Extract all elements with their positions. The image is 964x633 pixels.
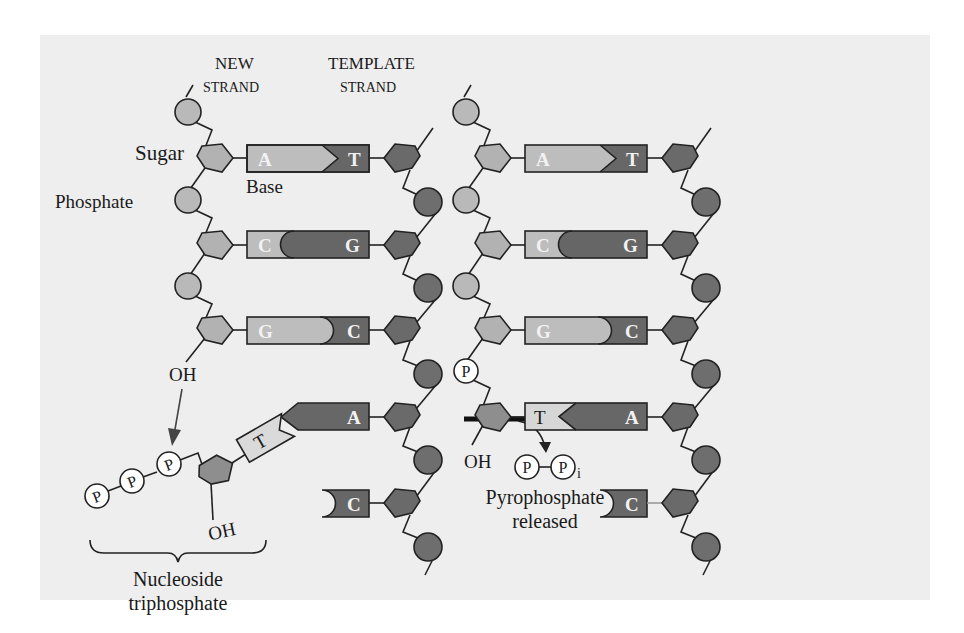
base-letter: C [347, 494, 361, 515]
sugar-icon [662, 144, 698, 172]
p-symbol: P [523, 459, 532, 476]
phosphate-icon [414, 274, 442, 302]
new-strand-phosphates [175, 99, 201, 299]
phosphate-label: Phosphate [55, 191, 133, 212]
pi-subscript: i [577, 466, 581, 481]
base-letter: C [258, 235, 272, 256]
sugar-icon [662, 231, 698, 259]
sugar-icon [194, 451, 238, 492]
template-strand-label-1: TEMPLATE [328, 54, 415, 73]
phosphate-icon [692, 446, 720, 474]
oh-label-right: OH [464, 451, 492, 472]
sugar-icon [384, 403, 420, 431]
base-letter: C [347, 321, 361, 342]
base-letter: C [536, 235, 550, 256]
nucleoside-label-2: triphosphate [129, 592, 228, 615]
phosphate-icon [175, 187, 201, 213]
base-pair-c-g: C G [525, 231, 647, 258]
base-letter: T [534, 407, 546, 428]
brace-icon [90, 540, 266, 562]
sugar-icon [384, 316, 420, 344]
new-strand-sugars [197, 144, 233, 344]
base-letter: A [258, 149, 272, 170]
phosphate-icon [453, 273, 479, 299]
template-base-c-unpaired: C [600, 490, 647, 517]
base-letter: A [536, 149, 550, 170]
sugar-icon [384, 489, 420, 517]
oh-label-top: OH [169, 364, 197, 385]
nucleoside-triphosphate: P P P T OH Nucleoside triphosphate [85, 414, 294, 615]
phosphate-icon [175, 273, 201, 299]
p-symbol: P [559, 459, 568, 476]
base-letter: G [623, 235, 638, 256]
phosphate-icon [692, 188, 720, 216]
sugar-icon [662, 403, 698, 431]
base-pair-g-c: G C [525, 317, 647, 344]
pyrophosphate: P P i [515, 455, 581, 481]
new-strand-label-2: STRAND [203, 80, 259, 95]
sugar-icon [384, 231, 420, 259]
nucleophilic-attack-arrow [168, 389, 182, 446]
base-letter: A [347, 407, 361, 428]
base-letter: G [536, 321, 551, 342]
template-base-a-unpaired: A [281, 403, 369, 430]
template-strand-label-2: STRAND [340, 80, 396, 95]
sugar-icon [475, 144, 511, 172]
sugar-icon [384, 144, 420, 172]
phosphate-icon [175, 99, 201, 125]
phosphate-icon [453, 99, 479, 125]
base-letter: C [625, 494, 639, 515]
pyrophosphate-label-2: released [512, 510, 578, 532]
base-letter: A [625, 407, 639, 428]
base-label: Base [246, 176, 283, 197]
base-letter: G [345, 235, 360, 256]
base-letter: T [348, 149, 361, 170]
sugar-icon [662, 489, 698, 517]
template-base-c-unpaired: C [322, 490, 369, 517]
sugar-icon [197, 231, 233, 259]
phosphate-icon [414, 188, 442, 216]
oh-label-bottom: OH [206, 518, 237, 544]
dna-replication-diagram: NEW STRAND TEMPLATE STRAND Sugar Base Ph… [0, 0, 964, 633]
base-pair-a-t: A T [525, 145, 647, 172]
phosphate-icon [692, 360, 720, 388]
sugar-icon [197, 144, 233, 172]
phosphate-icon [692, 533, 720, 561]
base-pair-t-a: T A [525, 403, 647, 430]
base-letter: T [626, 149, 639, 170]
new-strand-label-1: NEW [215, 54, 255, 73]
p-symbol: P [462, 363, 471, 380]
base-letter: G [258, 321, 273, 342]
pyrophosphate-label-1: Pyrophosphate [486, 486, 605, 509]
sugar-icon [662, 316, 698, 344]
phosphate-icon [692, 274, 720, 302]
sugar-icon [475, 316, 511, 344]
base-letter: C [625, 321, 639, 342]
phosphate-icon [414, 533, 442, 561]
phosphate-icon [414, 446, 442, 474]
sugar-label: Sugar [135, 141, 184, 165]
sugar-icon [475, 231, 511, 259]
phosphate-icon [453, 187, 479, 213]
nucleoside-label-1: Nucleoside [133, 568, 223, 590]
base-pair-g-c: G C [247, 317, 369, 344]
left-panel: NEW STRAND TEMPLATE STRAND Sugar Base Ph… [55, 54, 442, 615]
sugar-icon [197, 316, 233, 344]
base-pair-a-t: A T [247, 145, 369, 172]
base-pair-c-g: C G [247, 231, 369, 258]
sugar-icon [475, 403, 511, 431]
phosphate-icon [414, 360, 442, 388]
